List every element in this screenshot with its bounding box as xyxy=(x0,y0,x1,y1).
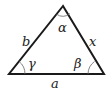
side-label-x: x xyxy=(89,34,97,49)
side-label-a: a xyxy=(51,76,59,90)
angle-label-alpha: α xyxy=(58,20,67,35)
angle-arc-gamma xyxy=(19,61,25,74)
angle-label-gamma: γ xyxy=(28,56,36,71)
angle-arc-beta xyxy=(88,62,95,75)
side-label-b: b xyxy=(22,34,30,49)
triangle-diagram: b x a α γ β xyxy=(0,0,110,90)
angle-label-beta: β xyxy=(73,56,82,71)
